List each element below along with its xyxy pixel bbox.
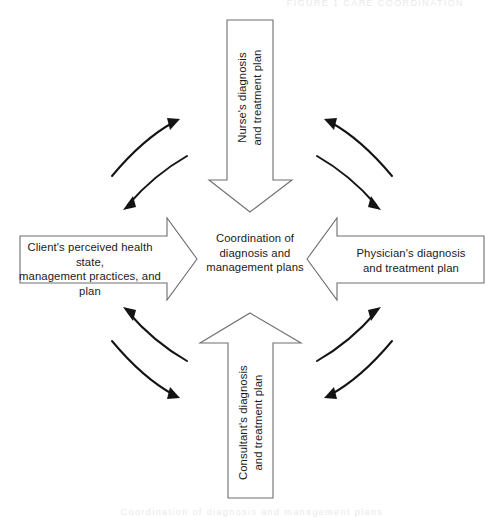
curved-arrow-pair-bottom-right	[317, 307, 392, 399]
right-block-arrow	[307, 218, 484, 300]
curved-arrow-pair-top-right	[317, 118, 392, 210]
top-block-arrow	[209, 20, 292, 212]
curved-arrow-pair-bottom-left	[112, 307, 187, 399]
diagram-graphics	[0, 0, 504, 517]
left-block-arrow	[20, 218, 197, 300]
curved-arrow-pair-top-left	[112, 118, 187, 210]
bottom-block-arrow	[200, 313, 301, 498]
diagram-canvas: FIGURE 1 CARE COORDINATION	[0, 0, 504, 517]
